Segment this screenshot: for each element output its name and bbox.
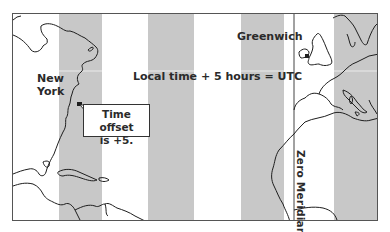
greenwich-label: Greenwich xyxy=(237,30,303,43)
map-frame xyxy=(12,13,378,221)
greenwich-marker xyxy=(305,54,309,58)
new-york-label-line1: New xyxy=(37,72,64,85)
utc-formula-label: Local time + 5 hours = UTC xyxy=(133,70,302,83)
new-york-label: New York xyxy=(37,72,64,98)
time-zone-map: New York Greenwich Local time + 5 hours … xyxy=(0,0,390,232)
new-york-label-line2: York xyxy=(37,85,64,98)
time-offset-callout: Time offset is +5. xyxy=(83,104,150,137)
callout-line2: is +5. xyxy=(84,134,149,147)
coastline-outlines xyxy=(13,14,378,221)
callout-line1: Time offset xyxy=(84,108,149,134)
zero-meridian-label: Zero Meridian xyxy=(295,150,307,232)
